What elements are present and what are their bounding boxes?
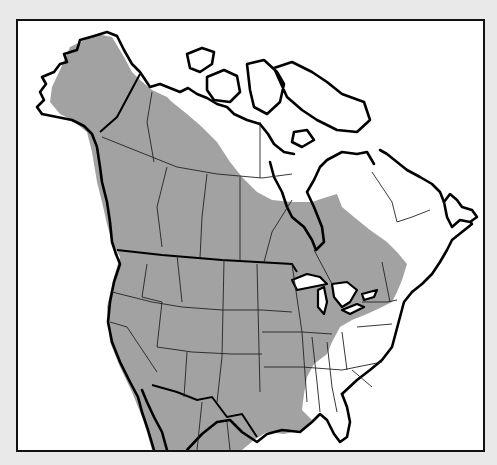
north-america-map [18,21,483,450]
map-frame [16,19,485,452]
map-stage [0,0,497,465]
